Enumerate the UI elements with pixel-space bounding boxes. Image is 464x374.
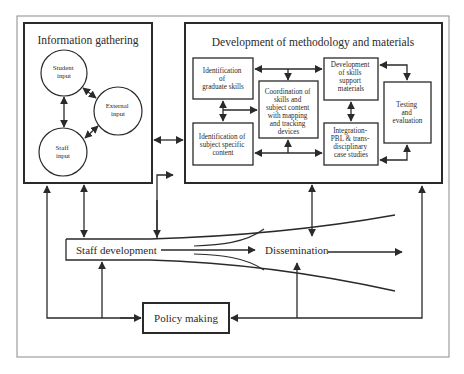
- development-group: Development of methodology and materials…: [185, 23, 442, 183]
- development-title: Development of methodology and materials: [212, 36, 415, 49]
- integration-label: Integration- PBL & trans- disciplinary c…: [331, 127, 371, 159]
- methodology-flow-diagram: Information gathering Student input Exte…: [0, 0, 464, 374]
- information-gathering-group: Information gathering Student input Exte…: [24, 23, 152, 183]
- staff-development-label: Staff development: [76, 244, 157, 256]
- staff-input-label: Staff input: [56, 144, 71, 159]
- dissemination-label: Dissemination: [265, 244, 329, 256]
- policy-making-label: Policy making: [154, 312, 218, 324]
- information-gathering-title: Information gathering: [37, 34, 138, 47]
